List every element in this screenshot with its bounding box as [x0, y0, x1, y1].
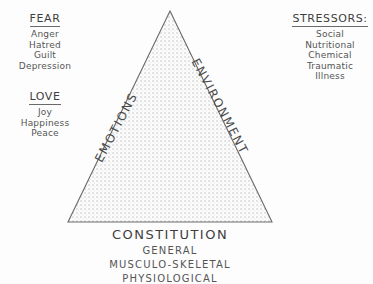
constitution-item: MUSCULO-SKELETAL: [55, 259, 285, 270]
diagram-canvas: FEAR Anger Hatred Guilt Depression LOVE …: [0, 0, 373, 284]
constitution-heading: CONSTITUTION: [55, 227, 285, 242]
constitution-text-block: CONSTITUTION GENERAL MUSCULO-SKELETAL PH…: [55, 227, 285, 284]
constitution-item: GENERAL: [55, 245, 285, 256]
constitution-item: PHYSIOLOGICAL: [55, 273, 285, 284]
triangle-outline: [68, 11, 272, 222]
